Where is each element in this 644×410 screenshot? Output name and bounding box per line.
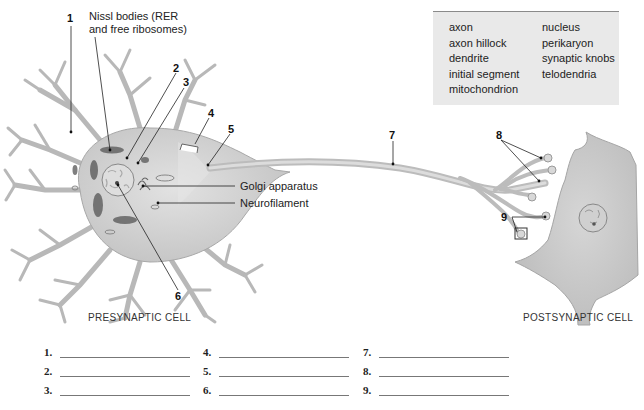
- label-nissl-line-1: Nissl bodies (RER: [89, 10, 187, 23]
- word-bank: axon axon hillock dendrite initial segme…: [433, 11, 619, 105]
- label-nissl-line-2: and free ribosomes): [89, 23, 187, 36]
- callout-3: 3: [183, 76, 189, 88]
- callout-2: 2: [173, 62, 179, 74]
- word-synaptic-knobs: synaptic knobs: [542, 51, 615, 67]
- answer-number-7: 7.: [363, 346, 377, 358]
- answer-row-2: 2.: [44, 365, 190, 377]
- answer-row-1: 1.: [44, 346, 190, 358]
- answer-number-8: 8.: [363, 365, 377, 377]
- answer-number-1: 1.: [44, 346, 58, 358]
- answer-blank-7[interactable]: [379, 347, 509, 358]
- word-perikaryon: perikaryon: [542, 36, 615, 52]
- word-nucleus: nucleus: [542, 20, 615, 36]
- answer-blank-1[interactable]: [60, 347, 190, 358]
- answer-row-3: 3.: [44, 384, 190, 396]
- callout-9: 9: [501, 211, 507, 223]
- answer-row-5: 5.: [203, 365, 349, 377]
- answer-number-5: 5.: [203, 365, 217, 377]
- callout-8: 8: [496, 129, 502, 141]
- postsynaptic-nucleus: [579, 204, 607, 232]
- word-telodendria: telodendria: [542, 67, 615, 83]
- callout-6: 6: [175, 290, 181, 302]
- callout-5: 5: [228, 123, 234, 135]
- answer-number-4: 4.: [203, 346, 217, 358]
- answer-row-9: 9.: [363, 384, 509, 396]
- answer-row-8: 8.: [363, 365, 509, 377]
- answer-row-4: 4.: [203, 346, 349, 358]
- answer-blank-3[interactable]: [60, 385, 190, 396]
- word-bank-column-1: axon axon hillock dendrite initial segme…: [449, 20, 519, 98]
- answer-blank-5[interactable]: [219, 366, 349, 377]
- word-axon-hillock: axon hillock: [449, 36, 519, 52]
- label-golgi-apparatus: Golgi apparatus: [240, 180, 318, 193]
- word-axon: axon: [449, 20, 519, 36]
- label-neurofilament: Neurofilament: [240, 197, 308, 210]
- word-bank-column-2: nucleus perikaryon synaptic knobs telode…: [542, 20, 615, 82]
- answer-number-2: 2.: [44, 365, 58, 377]
- answer-blank-9[interactable]: [379, 385, 509, 396]
- word-mitochondrion: mitochondrion: [449, 82, 519, 98]
- callout-4: 4: [208, 107, 214, 119]
- word-dendrite: dendrite: [449, 51, 519, 67]
- presynaptic-cell-title: PRESYNAPTIC CELL: [88, 312, 191, 323]
- callout-1: 1: [67, 12, 73, 24]
- answer-row-7: 7.: [363, 346, 509, 358]
- word-initial-segment: initial segment: [449, 67, 519, 83]
- answer-number-6: 6.: [203, 384, 217, 396]
- label-nissl-bodies: Nissl bodies (RER and free ribosomes): [89, 10, 187, 36]
- callout-7: 7: [389, 129, 395, 141]
- postsynaptic-cell-title: POSTSYNAPTIC CELL: [523, 312, 633, 323]
- answer-blank-8[interactable]: [379, 366, 509, 377]
- answer-row-6: 6.: [203, 384, 349, 396]
- answer-blank-2[interactable]: [60, 366, 190, 377]
- answer-blank-6[interactable]: [219, 385, 349, 396]
- answer-number-3: 3.: [44, 384, 58, 396]
- answer-number-9: 9.: [363, 384, 377, 396]
- answer-blank-4[interactable]: [219, 347, 349, 358]
